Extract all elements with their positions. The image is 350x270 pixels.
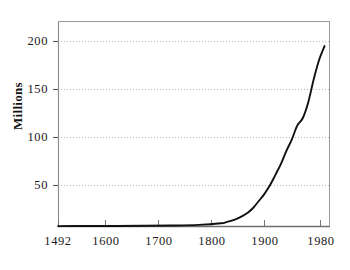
y-tick-label-150: 150: [8, 82, 48, 97]
x-tick-label-1600: 1600: [76, 234, 136, 249]
x-tick-label-1900: 1900: [235, 234, 295, 249]
y-tick-label-50: 50: [8, 178, 48, 193]
chart-canvas: [0, 0, 350, 270]
y-tick-label-100: 100: [8, 130, 48, 145]
y-tick-marks-group: [53, 42, 58, 186]
population-growth-chart: Millions 200: [0, 0, 350, 270]
gridlines-group: [58, 42, 330, 186]
plot-frame-group: [58, 21, 330, 227]
x-tick-label-1800: 1800: [182, 234, 242, 249]
population-line: [58, 46, 325, 226]
y-tick-label-200: 200: [8, 34, 48, 49]
x-tick-label-1980: 1980: [291, 234, 350, 249]
x-tick-label-1700: 1700: [129, 234, 189, 249]
